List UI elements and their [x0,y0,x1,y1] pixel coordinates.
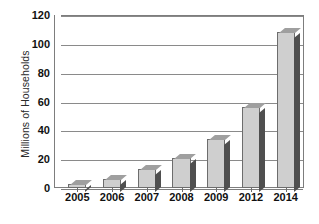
bar-slot [103,15,121,188]
bar [138,169,156,188]
bar-side-face [190,159,196,192]
bar-top-face [105,175,127,180]
bar-chart: Millions of Households 020406080100120 2… [0,0,319,224]
bar-top-face [279,28,301,33]
bar-slot [138,15,156,188]
bar-slot [172,15,190,188]
bar-top-face [140,165,162,170]
y-axis-tick-label: 120 [18,10,50,20]
bar-slot [277,15,295,188]
bar [172,158,190,188]
bar-top-face [244,103,266,108]
y-axis-tick-label: 60 [18,97,50,107]
plot-area [54,15,304,188]
y-axis-tick-labels: 020406080100120 [18,0,50,224]
source-caption-cropped [40,217,310,224]
x-axis-tick-labels: 2005200620072008200920122014 [60,191,304,207]
x-axis-tick-label: 2012 [234,191,269,203]
bar-series [60,15,303,188]
bar [103,179,121,188]
y-axis-tick-label: 20 [18,154,50,164]
y-axis-tick-label: 40 [18,125,50,135]
x-axis-tick-label: 2008 [164,191,199,203]
bar [242,107,260,188]
y-axis-tick-label: 0 [18,183,50,193]
bar-side-face [224,140,230,192]
bar [207,139,225,188]
bar-slot [68,15,86,188]
bar-side-face [259,108,265,192]
bar-top-face [209,135,231,140]
x-axis-tick-label: 2014 [268,191,303,203]
bar-top-face [174,154,196,159]
x-axis-tick-label: 2009 [199,191,234,203]
bar-top-face [70,180,92,185]
bar [277,32,295,188]
x-axis-tick-label: 2007 [129,191,164,203]
y-axis-tick-label: 100 [18,39,50,49]
x-axis-tick-label: 2006 [95,191,130,203]
bar-slot [242,15,260,188]
bar-side-face [294,33,300,192]
y-axis-tick-label: 80 [18,68,50,78]
x-axis-tick-label: 2005 [60,191,95,203]
bar-slot [207,15,225,188]
